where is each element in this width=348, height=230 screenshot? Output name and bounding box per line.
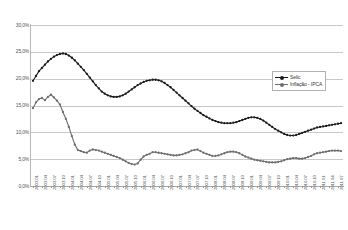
y-axis-tick-label: 25,0% xyxy=(16,49,29,54)
x-axis-tick-label: 2009.07 xyxy=(268,175,272,190)
series-layer xyxy=(31,25,343,186)
plot-area xyxy=(31,25,343,186)
x-axis-tick-label: 2004.07 xyxy=(89,175,93,190)
x-axis-tick-label: 2003.01 xyxy=(35,175,39,190)
x-axis-tick-label: 2004.01 xyxy=(71,175,75,190)
x-axis-tick-label: 2004.04 xyxy=(80,175,84,190)
y-axis-tick-label: 5,0% xyxy=(18,157,29,162)
x-axis-tick-label: 2007.07 xyxy=(196,175,200,190)
x-axis-tick-label: 2005.10 xyxy=(134,175,138,190)
legend: Selic Inflação - IPCA xyxy=(272,71,326,91)
x-axis-tick-label: 2004.10 xyxy=(98,175,102,190)
x-axis-labels: 2003.012003.042003.072003.102004.012004.… xyxy=(31,188,344,230)
y-axis-tick-label: 30,0% xyxy=(16,23,29,28)
x-axis-tick-label: 2008.10 xyxy=(241,175,245,190)
series-line-selic xyxy=(33,53,341,135)
x-axis-tick-label: 2003.07 xyxy=(53,175,57,190)
x-axis-tick-label: 2008.07 xyxy=(232,175,236,190)
x-axis-tick-label: 2005.07 xyxy=(125,175,129,190)
chart-container: 0,0%5,0%10,0%15,0%20,0%25,0%30,0% 2003.0… xyxy=(0,0,348,230)
x-axis-tick-label: 2007.04 xyxy=(188,175,192,190)
legend-item-ipca: Inflação - IPCA xyxy=(275,81,322,88)
x-axis-tick-label: 2009.10 xyxy=(277,175,281,190)
y-axis-tick-label: 20,0% xyxy=(16,76,29,81)
x-axis-tick-label: 2007.10 xyxy=(205,175,209,190)
legend-marker-selic xyxy=(275,75,288,80)
y-axis-tick-label: 0,0% xyxy=(18,184,29,189)
x-axis-tick-label: 2011.07 xyxy=(340,176,344,191)
series-line-ipca xyxy=(33,95,341,165)
x-axis-tick-label: 2008.01 xyxy=(214,175,218,190)
legend-label-selic: Selic xyxy=(290,75,300,80)
legend-marker-ipca xyxy=(275,82,288,87)
x-axis-tick-label: 2006.07 xyxy=(161,175,165,190)
x-axis-tick-label: 2010.04 xyxy=(295,175,299,190)
x-axis-tick-label: 2005.04 xyxy=(116,175,120,190)
x-axis-tick-label: 2009.01 xyxy=(250,175,254,190)
x-axis-tick-label: 2010.07 xyxy=(304,175,308,190)
x-axis-tick-label: 2008.04 xyxy=(223,175,227,190)
x-axis-tick-label: 2003.10 xyxy=(62,175,66,190)
y-axis-tick-label: 15,0% xyxy=(16,103,29,108)
y-axis-tick-label: 10,0% xyxy=(16,130,29,135)
x-axis-tick-label: 2006.01 xyxy=(143,175,147,190)
series-markers-ipca xyxy=(32,94,342,166)
y-axis-labels: 0,0%5,0%10,0%15,0%20,0%25,0%30,0% xyxy=(0,0,29,230)
legend-item-selic: Selic xyxy=(275,74,322,81)
x-axis-tick-label: 2007.01 xyxy=(179,175,183,190)
x-axis-tick-label: 2010.01 xyxy=(286,175,290,190)
x-axis-tick-label: 2010.10 xyxy=(313,175,317,190)
x-axis-tick-label: 2006.10 xyxy=(170,175,174,190)
x-axis-tick-label: 2009.04 xyxy=(259,175,263,190)
x-axis-tick-label: 2011.04 xyxy=(331,176,335,191)
x-axis-tick-label: 2005.01 xyxy=(107,175,111,190)
x-axis-tick-label: 2006.04 xyxy=(152,175,156,190)
x-axis-tick-label: 2003.04 xyxy=(44,175,48,190)
legend-label-ipca: Inflação - IPCA xyxy=(290,82,322,87)
x-axis-tick-label: 2011.01 xyxy=(322,176,326,191)
